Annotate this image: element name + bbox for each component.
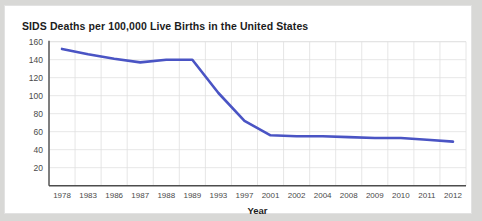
y-axis-tick-label: 140 [29,55,43,65]
x-axis-tick-label: 1988 [157,191,175,200]
x-axis-tick-label: 2009 [366,191,384,200]
x-axis-tick-label: 2004 [314,191,332,200]
y-axis-tick-label: 80 [34,109,44,119]
x-axis-tick-label: 1978 [53,191,71,200]
x-axis-tick-label: 1997 [236,191,254,200]
x-axis-tick-label: 1989 [183,191,201,200]
x-axis-tick-labels: 1978198319861987198819891993199720012002… [53,191,462,200]
x-axis-title: Year [247,205,267,215]
gridlines-group [49,42,466,186]
y-axis-tick-label: 60 [34,127,44,137]
x-axis-tick-label: 2001 [262,191,280,200]
x-axis-tick-label: 2011 [418,191,436,200]
x-axis-tick-label: 2002 [288,191,306,200]
y-axis-tick-label: 100 [29,91,43,101]
x-axis-tick-label: 1993 [210,191,228,200]
x-axis-tick-label: 2012 [444,191,462,200]
x-axis-tick-label: 2010 [392,191,410,200]
y-axis-tick-labels: 20406080100120140160 [29,37,43,173]
x-axis-tick-label: 2008 [340,191,358,200]
y-axis-tick-label: 120 [29,73,43,83]
x-axis-tick-label: 1986 [105,191,123,200]
x-axis-tick-label: 1983 [79,191,97,200]
y-axis-tick-label: 40 [34,145,44,155]
chart-card: SIDS Deaths per 100,000 Live Births in t… [4,5,472,214]
line-chart-svg: 20406080100120140160 1978198319861987198… [5,6,473,215]
x-axis-tick-label: 1987 [131,191,149,200]
y-axis-tick-label: 160 [29,37,43,47]
chart-plot-area: 20406080100120140160 1978198319861987198… [5,6,473,215]
y-axis-tick-label: 20 [34,163,44,173]
